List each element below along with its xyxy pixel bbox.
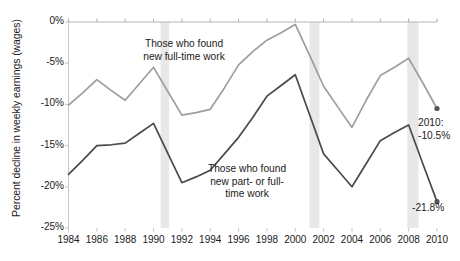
y-tick-label: -20% <box>30 180 64 191</box>
x-tick-label: 1984 <box>57 234 79 245</box>
y-tick-label: 0% <box>30 15 64 26</box>
chart-plot-area <box>0 0 460 261</box>
chart-container: Percent decline in weekly earnings (wage… <box>0 0 460 261</box>
x-tick-label: 1992 <box>171 234 193 245</box>
y-tick-label: -5% <box>30 56 64 67</box>
x-tick-label: 1988 <box>114 234 136 245</box>
x-tick-label: 2010 <box>426 234 448 245</box>
endpoint-label-part-or-full-time: -21.8% <box>412 202 444 215</box>
full-time-label-line-1: new full-time work <box>143 51 225 64</box>
y-tick-label-wrap: -20% <box>30 180 64 191</box>
recession-2001 <box>309 22 319 228</box>
endpoint-label-full-time-line-0: 2010: <box>418 117 450 130</box>
y-tick-label-wrap: -5% <box>30 56 64 67</box>
part-or-full-time-label-line-1: new part- or full- <box>208 176 286 189</box>
y-tick-label-wrap: -15% <box>30 139 64 150</box>
endpoint-label-full-time-line-1: -10.5% <box>418 130 450 143</box>
x-tick-label: 2004 <box>341 234 363 245</box>
series-line-0 <box>69 24 438 127</box>
x-tick-label: 1994 <box>199 234 221 245</box>
part-or-full-time-label-line-0: Those who found <box>208 163 286 176</box>
y-tick-label: -25% <box>30 221 64 232</box>
y-tick-label-wrap: -25% <box>30 221 64 232</box>
part-or-full-time-label-line-2: time work <box>208 188 286 201</box>
x-tick-label: 2000 <box>284 234 306 245</box>
x-tick-label: 2008 <box>398 234 420 245</box>
y-tick-label: -15% <box>30 139 64 150</box>
x-tick-label: 1998 <box>256 234 278 245</box>
full-time-2010-marker <box>434 106 439 111</box>
x-tick-label: 2006 <box>369 234 391 245</box>
endpoint-label-part-or-full-time-line-0: -21.8% <box>412 202 444 215</box>
full-time-label: Those who foundnew full-time work <box>143 38 225 63</box>
x-tick-label: 1986 <box>86 234 108 245</box>
y-tick-label-wrap: -10% <box>30 97 64 108</box>
y-tick-label: -10% <box>30 97 64 108</box>
x-tick-label: 1990 <box>142 234 164 245</box>
part-or-full-time-label: Those who foundnew part- or full-time wo… <box>208 163 286 201</box>
x-tick-label: 2002 <box>312 234 334 245</box>
endpoint-label-full-time: 2010:-10.5% <box>418 117 450 142</box>
x-tick-label: 1996 <box>227 234 249 245</box>
y-tick-label-wrap: 0% <box>30 15 64 26</box>
full-time-label-line-0: Those who found <box>143 38 225 51</box>
